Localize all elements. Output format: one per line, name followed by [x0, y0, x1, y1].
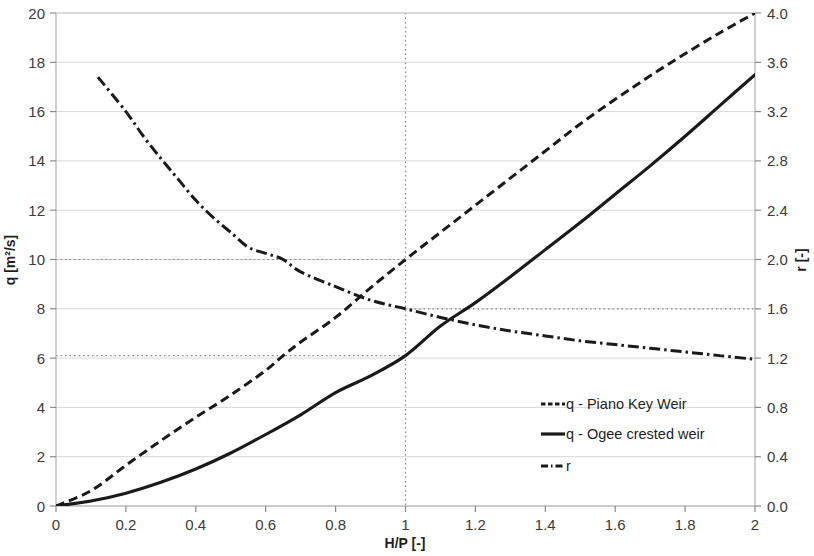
x-tick-label: 0	[52, 516, 60, 533]
y2-tick-label: 3.2	[767, 103, 788, 120]
legend-label: q - Ogee crested weir	[566, 426, 705, 442]
legend-item: q - Ogee crested weir	[541, 426, 705, 442]
y-tick-label: 6	[37, 350, 45, 367]
y-tick-label: 14	[28, 152, 45, 169]
y2-tick-label: 1.6	[767, 300, 788, 317]
y2-tick-label: 4.0	[767, 5, 788, 22]
y-tick-label: 0	[37, 498, 45, 515]
y-tick-label: 12	[28, 202, 45, 219]
x-tick-label: 1	[401, 516, 409, 533]
chart-svg: 00.20.40.60.811.21.41.61.820246810121416…	[0, 0, 814, 556]
y-tick-label: 2	[37, 448, 45, 465]
x-tick-label: 1.6	[605, 516, 626, 533]
y-tick-label: 8	[37, 300, 45, 317]
y-tick-label: 18	[28, 54, 45, 71]
y2-tick-label: 0.0	[767, 498, 788, 515]
y2-tick-label: 2.8	[767, 152, 788, 169]
x-tick-label: 2	[751, 516, 759, 533]
y-tick-label: 16	[28, 103, 45, 120]
x-tick-label: 0.6	[255, 516, 276, 533]
y2-tick-label: 0.4	[767, 448, 788, 465]
x-tick-label: 1.4	[535, 516, 556, 533]
legend-label: q - Piano Key Weir	[566, 396, 687, 412]
legend-label: r	[566, 458, 571, 474]
y2-axis-title: r [-]	[793, 248, 809, 271]
y2-tick-label: 3.6	[767, 54, 788, 71]
chart-background	[0, 0, 814, 556]
x-tick-label: 1.2	[465, 516, 486, 533]
y2-tick-label: 0.8	[767, 399, 788, 416]
chart-figure: 00.20.40.60.811.21.41.61.820246810121416…	[0, 0, 814, 556]
y-tick-label: 20	[28, 5, 45, 22]
y2-tick-label: 1.2	[767, 350, 788, 367]
x-axis-title: H/P [-]	[385, 535, 426, 551]
y-tick-label: 4	[37, 399, 45, 416]
y2-tick-label: 2.0	[767, 251, 788, 268]
x-tick-label: 0.4	[185, 516, 206, 533]
x-tick-label: 0.2	[115, 516, 136, 533]
x-tick-label: 1.8	[675, 516, 696, 533]
y2-tick-label: 2.4	[767, 202, 788, 219]
x-tick-label: 0.8	[325, 516, 346, 533]
y-axis-title: q [m²/s]	[2, 235, 18, 286]
y-tick-label: 10	[28, 251, 45, 268]
